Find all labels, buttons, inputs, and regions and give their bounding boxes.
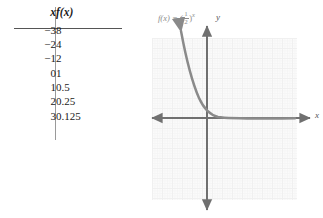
fraction-numerator: 1 xyxy=(183,11,189,18)
cell-x: −3 xyxy=(14,23,56,37)
table-row: 3 0.125 xyxy=(14,109,108,123)
x-axis-label: x xyxy=(315,110,319,120)
graph-panel: f(x) = (12)x y x xyxy=(150,0,323,218)
y-axis-label: y xyxy=(216,12,220,22)
cell-x: 3 xyxy=(14,109,56,123)
function-fraction: 12 xyxy=(183,11,189,27)
cell-fx: 0.125 xyxy=(56,109,108,123)
exponential-curve xyxy=(150,0,323,218)
cell-fx: 1 xyxy=(56,66,108,80)
fraction-denominator: 2 xyxy=(183,18,189,26)
cell-x: −1 xyxy=(14,52,56,66)
values-table: x f(x) −3 8 −2 4 −1 2 0 1 1 0.5 xyxy=(14,6,108,123)
cell-x: −2 xyxy=(14,38,56,52)
function-exponent: x xyxy=(192,11,195,18)
function-label: f(x) = (12)x xyxy=(158,11,195,27)
column-header-fx: f(x) xyxy=(56,6,108,23)
cell-x: 2 xyxy=(14,95,56,109)
column-header-x: x xyxy=(14,6,56,23)
function-label-prefix: f(x) = ( xyxy=(158,13,183,23)
cell-x: 1 xyxy=(14,80,56,94)
table-row: 1 0.5 xyxy=(14,80,108,94)
cell-fx: 4 xyxy=(56,38,108,52)
cell-fx: 0.25 xyxy=(56,95,108,109)
cell-x: 0 xyxy=(14,66,56,80)
table-header-row: x f(x) xyxy=(14,6,108,23)
table-row: 2 0.25 xyxy=(14,95,108,109)
cell-fx: 2 xyxy=(56,52,108,66)
values-table-panel: x f(x) −3 8 −2 4 −1 2 0 1 1 0.5 xyxy=(0,0,150,218)
curve-path xyxy=(181,31,295,119)
cell-fx: 0.5 xyxy=(56,80,108,94)
table-row: 0 1 xyxy=(14,66,108,80)
table-body: −3 8 −2 4 −1 2 0 1 1 0.5 2 0.25 xyxy=(14,23,108,123)
cell-fx: 8 xyxy=(56,23,108,37)
table-row: −2 4 xyxy=(14,38,108,52)
table-row: −3 8 xyxy=(14,23,108,37)
table-row: −1 2 xyxy=(14,52,108,66)
